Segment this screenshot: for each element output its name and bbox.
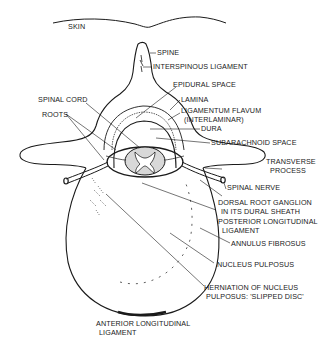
label-transverse-process-sub: PROCESS	[270, 167, 306, 175]
label-interspinous-ligament: INTERSPINOUS LIGAMENT	[153, 63, 248, 71]
label-lamina: LAMINA	[181, 96, 208, 104]
label-dura: DURA	[201, 125, 222, 133]
label-roots: ROOTS	[42, 111, 68, 119]
intervertebral-disc	[66, 168, 219, 316]
label-anterior-longitudinal-ligament-sub: LIGAMENT	[99, 329, 137, 337]
label-spine: SPINE	[157, 49, 179, 57]
label-herniation-sub: PULPOSUS: 'SLIPPED DISC'	[206, 293, 304, 301]
nucleus-boundary	[120, 184, 192, 284]
label-skin: SKIN	[68, 23, 85, 31]
label-posterior-longitudinal-ligament-sub: LIGAMENT	[222, 227, 260, 235]
label-nucleus-pulposus: NUCLEUS PULPOSUS	[217, 261, 294, 269]
label-annulus-fibrosus: ANNULUS FIBROSUS	[231, 240, 306, 248]
label-spinal-cord: SPINAL CORD	[38, 96, 88, 104]
label-subarachnoid-space: SUBARACHNOID SPACE	[211, 139, 297, 147]
interspinous-ligament-mark	[140, 55, 143, 72]
label-spinal-nerve: SPINAL NERVE	[227, 184, 280, 192]
herniation-stipple	[90, 178, 106, 216]
label-epidural-space: EPIDURAL SPACE	[173, 81, 236, 89]
anterior-longitudinal-ligament	[118, 312, 166, 315]
label-dorsal-root-ganglion-sub: IN ITS DURAL SHEATH	[221, 208, 300, 216]
